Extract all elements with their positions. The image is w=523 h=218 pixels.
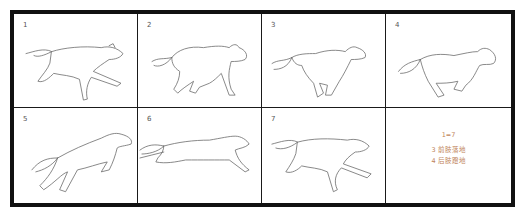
note-front-legs-landing: 3 前肢落地 (386, 145, 511, 156)
dog-sketch-icon (138, 14, 261, 107)
dog-sketch-icon (14, 14, 137, 107)
panel-7: 7 (262, 108, 386, 203)
dog-sketch-icon (14, 108, 137, 203)
dog-sketch-icon (262, 108, 385, 203)
panel-6: 6 (138, 108, 262, 203)
dog-sketch-icon (386, 14, 511, 107)
dog-sketch-icon (262, 14, 385, 107)
panel-2: 2 (138, 14, 262, 108)
notes-block: 1=7 3 前肢落地 4 后肢蹬地 (386, 130, 511, 167)
panel-1: 1 (14, 14, 138, 108)
panel-4: 4 (386, 14, 511, 108)
note-equivalence: 1=7 (386, 130, 511, 141)
panel-3: 3 (262, 14, 386, 108)
dog-sketch-icon (138, 108, 261, 203)
note-hind-legs-push: 4 后肢蹬地 (386, 156, 511, 167)
storyboard-grid: 1 2 3 4 5 6 (10, 10, 515, 207)
panel-notes: 1=7 3 前肢落地 4 后肢蹬地 (386, 108, 511, 203)
panel-5: 5 (14, 108, 138, 203)
